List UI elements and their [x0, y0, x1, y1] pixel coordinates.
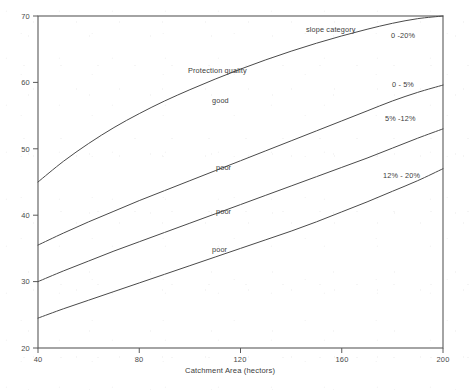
- curve-slope-0-5: [38, 85, 443, 245]
- y-tick-label-70: 70: [8, 12, 30, 21]
- x-tick-label-120: 120: [225, 355, 255, 364]
- annotation-protection-quality: Protection quality: [188, 66, 247, 75]
- annotation-poor-upper: poor: [216, 163, 231, 172]
- curve-slope-5-12: [38, 129, 443, 282]
- y-tick-label-60: 60: [8, 78, 30, 87]
- series-label-12-20: 12% - 20%: [383, 171, 420, 180]
- annotation-poor-lower: poor: [212, 245, 227, 254]
- series-label-5-12: 5% -12%: [385, 114, 416, 123]
- annotation-poor-middle: poor: [216, 207, 231, 216]
- y-tick-label-40: 40: [8, 211, 30, 220]
- y-axis-ticks: [33, 16, 38, 348]
- series-label-0-20: 0 -20%: [391, 31, 415, 40]
- annotation-good: good: [212, 96, 229, 105]
- x-axis-ticks: [38, 348, 443, 353]
- series-label-0-5: 0 - 5%: [392, 80, 414, 89]
- data-curves: [38, 16, 443, 318]
- y-tick-label-20: 20: [8, 344, 30, 353]
- curve-slope-0-20: [38, 16, 443, 182]
- chart-figure: 70 60 50 40 30 20 40 80 120 160 200 Catc…: [0, 0, 471, 390]
- annotation-slope-category: slope category: [306, 25, 356, 34]
- x-tick-label-160: 160: [327, 355, 357, 364]
- y-tick-label-30: 30: [8, 277, 30, 286]
- x-tick-label-200: 200: [428, 355, 458, 364]
- curve-slope-12-20: [38, 169, 443, 318]
- x-tick-label-40: 40: [23, 355, 53, 364]
- x-axis-title: Catchment Area (hectors): [185, 366, 275, 375]
- x-tick-label-80: 80: [124, 355, 154, 364]
- plot-area: [0, 0, 471, 390]
- y-tick-label-50: 50: [8, 145, 30, 154]
